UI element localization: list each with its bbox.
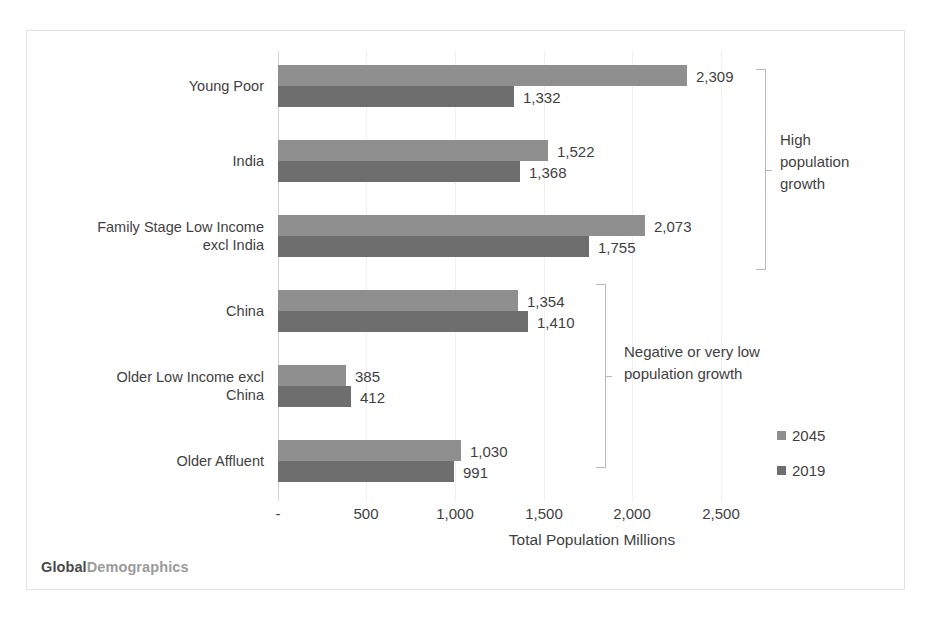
bar-2019[interactable]: 1,332	[278, 86, 514, 107]
bar-value-2045: 2,309	[696, 67, 734, 84]
category-label: India	[50, 152, 278, 170]
category-label-line1: Older Low Income excl	[117, 369, 264, 385]
bar-2019[interactable]: 1,410	[278, 311, 528, 332]
category-row-young-poor: Young Poor 2,309 1,332	[278, 65, 906, 107]
x-axis-title: Total Population Millions	[278, 531, 906, 549]
legend-swatch-icon	[777, 466, 786, 475]
category-row-family-stage-low-income: Family Stage Low Income excl India 2,073…	[278, 215, 906, 257]
x-tick-1000: 1,000	[436, 505, 474, 522]
category-label-line1: China	[226, 303, 264, 319]
gridline-2500	[721, 51, 722, 501]
category-label: Family Stage Low Income excl India	[50, 218, 278, 254]
gridline-1500	[544, 51, 545, 501]
bar-value-2045: 1,030	[470, 442, 508, 459]
category-row-china: China 1,354 1,410	[278, 290, 906, 332]
bar-value-2019: 1,755	[598, 238, 636, 255]
bar-value-2045: 2,073	[654, 217, 692, 234]
branding-watermark: GlobalDemographics	[41, 559, 189, 575]
branding-part1: Global	[41, 559, 87, 575]
bracket-high-growth	[756, 69, 766, 270]
category-label: Young Poor	[50, 77, 278, 95]
bar-2045[interactable]: 1,522	[278, 140, 548, 161]
bar-value-2019: 991	[463, 463, 488, 480]
x-axis-ticks: - 500 1,000 1,500 2,000 2,500	[278, 505, 906, 529]
bracket-nub	[605, 376, 612, 377]
bar-2019[interactable]: 991	[278, 461, 454, 482]
category-label: Older Affluent	[50, 452, 278, 470]
category-label-line2: excl India	[203, 237, 264, 253]
bracket-nub	[765, 170, 772, 171]
category-label: Older Low Income excl China	[50, 368, 278, 404]
x-tick-2000: 2,000	[613, 505, 651, 522]
bar-value-2045: 385	[355, 367, 380, 384]
bar-value-2045: 1,354	[527, 292, 565, 309]
x-tick-1500: 1,500	[525, 505, 563, 522]
legend-label: 2045	[792, 427, 825, 444]
category-label: China	[50, 302, 278, 320]
gridline-500	[366, 51, 367, 501]
bracket-label-high-growth: High population growth	[780, 129, 890, 194]
x-tick-2500: 2,500	[702, 505, 740, 522]
gridline-1000	[455, 51, 456, 501]
branding-part2: Demographics	[87, 559, 189, 575]
chart-frame: Young Poor 2,309 1,332 India 1,522 1,368…	[26, 30, 905, 590]
value-axis-line	[278, 51, 279, 501]
legend-swatch-icon	[777, 431, 786, 440]
x-tick-500: 500	[353, 505, 378, 522]
bar-2019[interactable]: 1,368	[278, 161, 520, 182]
category-label-line1: Family Stage Low Income	[97, 219, 264, 235]
bar-2045[interactable]: 1,354	[278, 290, 518, 311]
legend-item-2045[interactable]: 2045	[777, 427, 825, 444]
bar-2045[interactable]: 2,073	[278, 215, 645, 236]
gridline-2000	[632, 51, 633, 501]
category-label-line1: Young Poor	[189, 78, 264, 94]
x-tick-0: -	[276, 505, 281, 522]
bar-value-2019: 412	[360, 388, 385, 405]
bar-2045[interactable]: 1,030	[278, 440, 461, 461]
bracket-label-low-growth: Negative or very low population growth	[624, 341, 814, 385]
bracket-low-growth	[596, 284, 606, 468]
bar-value-2019: 1,410	[537, 313, 575, 330]
category-label-line1: India	[233, 153, 264, 169]
bar-2045[interactable]: 2,309	[278, 65, 687, 86]
legend-item-2019[interactable]: 2019	[777, 462, 825, 479]
bar-value-2045: 1,522	[557, 142, 595, 159]
bar-value-2019: 1,332	[523, 88, 561, 105]
bar-2019[interactable]: 412	[278, 386, 351, 407]
bar-2019[interactable]: 1,755	[278, 236, 589, 257]
category-label-line1: Older Affluent	[176, 453, 264, 469]
legend-label: 2019	[792, 462, 825, 479]
bar-value-2019: 1,368	[529, 163, 567, 180]
bar-2045[interactable]: 385	[278, 365, 346, 386]
category-label-line2: China	[226, 387, 264, 403]
